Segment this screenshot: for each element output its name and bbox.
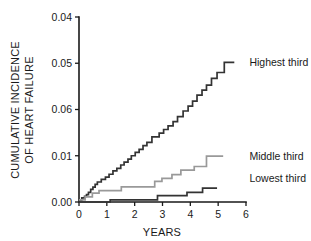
axes-group — [75, 17, 246, 206]
series-inline-labels: Highest thirdMiddle thirdLowest third — [249, 56, 308, 184]
series-label-lowest-third: Lowest third — [249, 172, 306, 184]
x-tick-label-4: 4 — [187, 208, 193, 220]
y-axis-title-line1: CUMULATIVE INCIDENCE — [9, 41, 21, 179]
x-tick-label-5: 5 — [215, 208, 221, 220]
y-tick-label-0.04: 0.04 — [52, 11, 73, 23]
curve-middle-third — [79, 156, 223, 200]
y-axis-tick-labels: 0.000.010.060.050.04 — [52, 11, 73, 208]
y-tick-label-0.00: 0.00 — [52, 196, 73, 208]
y-tick-label-0.06: 0.06 — [52, 103, 73, 115]
x-tick-label-1: 1 — [104, 208, 110, 220]
series-label-middle-third: Middle third — [249, 150, 303, 162]
x-tick-label-2: 2 — [132, 208, 138, 220]
x-axis-title: YEARS — [143, 226, 181, 238]
y-tick-label-0.05: 0.05 — [52, 57, 73, 69]
chart-figure: 0.000.010.060.050.04 0123456 Highest thi… — [0, 0, 311, 241]
x-tick-label-6: 6 — [243, 208, 249, 220]
x-tick-label-0: 0 — [76, 208, 82, 220]
curve-highest-third — [79, 62, 234, 200]
y-axis-title-line2: OF HEART FAILURE — [23, 56, 35, 163]
x-tick-label-3: 3 — [160, 208, 166, 220]
axis-spines — [79, 17, 246, 202]
x-axis-tick-labels: 0123456 — [76, 208, 249, 220]
chart-canvas: 0.000.010.060.050.04 0123456 Highest thi… — [0, 0, 311, 241]
y-tick-label-0.01: 0.01 — [52, 150, 73, 162]
series-label-highest-third: Highest third — [249, 56, 308, 68]
series-curves — [79, 62, 234, 202]
